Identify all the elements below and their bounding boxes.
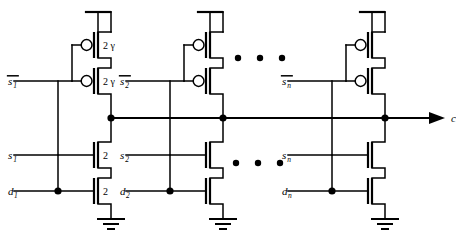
output-label: c xyxy=(451,112,456,124)
pmos-top xyxy=(184,32,210,58)
stage-1: s1s1d12 γ2 γ22 xyxy=(8,12,125,229)
ellipsis-bottom-dot-1 xyxy=(233,160,239,166)
output-arrow-group: c xyxy=(385,112,456,124)
inversion-bubble-icon xyxy=(81,40,92,51)
stage-n-d-label: dn xyxy=(282,185,292,200)
nmos-top xyxy=(332,142,372,168)
stage-1-size-nmos-bottom: 2 xyxy=(103,186,108,197)
nmos-drain-to-out xyxy=(210,118,223,142)
nmos-drain-to-out xyxy=(372,118,385,142)
nmos-bottom xyxy=(332,178,372,204)
stage-n-s-label: sn xyxy=(282,149,291,164)
stage-n: snsndn xyxy=(282,12,399,229)
pmos-top xyxy=(346,32,372,58)
nmos-source-to-gnd xyxy=(210,204,223,219)
nmos-drain-to-out xyxy=(98,118,111,142)
stage-1-size-pmos-top: 2 γ xyxy=(103,40,116,51)
stage-1-d-label-subscript: 1 xyxy=(14,191,18,200)
stage-1-d-label: d1 xyxy=(8,185,18,200)
pmos-series-link xyxy=(98,58,111,68)
stage-n-sbar-label: sn xyxy=(282,75,293,90)
stage-1-s-label: s1 xyxy=(8,149,17,164)
stage-n-sbar-label-subscript: n xyxy=(287,81,291,90)
nmos-top xyxy=(58,142,98,168)
stage-2: s2s2d2 xyxy=(120,12,237,229)
nmos-bottom xyxy=(170,178,210,204)
d-junction-dot xyxy=(328,187,335,194)
inversion-bubble-icon xyxy=(193,76,204,87)
ellipsis-bottom-dot-2 xyxy=(255,160,261,166)
ellipsis-bottom-dot-3 xyxy=(277,160,283,166)
d-junction-dot xyxy=(166,187,173,194)
nmos-series-link xyxy=(372,168,385,178)
schematic-canvas: s1s1d12 γ2 γ22s2s2d2snsndnc xyxy=(0,0,456,246)
stage-2-s-label: s2 xyxy=(120,149,129,164)
stage-2-s-label-subscript: 2 xyxy=(125,155,129,164)
nmos-bottom xyxy=(58,178,98,204)
pmos-series-link xyxy=(372,58,385,68)
ellipsis-top-dot-2 xyxy=(257,55,263,61)
pmos-bottom xyxy=(184,68,210,94)
stage-1-size-pmos-bottom: 2 γ xyxy=(103,76,116,87)
stage-1-sbar-label-subscript: 1 xyxy=(13,81,17,90)
stage-1-s-label-base: s xyxy=(8,149,12,161)
ellipsis-top-dot-1 xyxy=(235,55,241,61)
output-node-dot xyxy=(107,114,114,121)
stage-n-d-label-subscript: n xyxy=(288,191,292,200)
stage-2-sbar-label-subscript: 2 xyxy=(125,81,129,90)
pmos-drain-to-out xyxy=(98,94,111,118)
nmos-series-link xyxy=(98,168,111,178)
ellipsis-bottom xyxy=(233,160,283,166)
pmos-top xyxy=(72,32,98,58)
nmos-series-link xyxy=(210,168,223,178)
pmos-bottom xyxy=(346,68,372,94)
nmos-source-to-gnd xyxy=(372,204,385,219)
inversion-bubble-icon xyxy=(355,76,366,87)
stage-n-s-label-subscript: n xyxy=(287,155,291,164)
ellipsis-top xyxy=(235,55,285,61)
stage-1-s-label-subscript: 1 xyxy=(13,155,17,164)
stage-1-size-nmos-top: 2 xyxy=(103,150,108,161)
stage-2-sbar-label: s2 xyxy=(120,75,131,90)
stage-1-sbar-label: s1 xyxy=(8,75,19,90)
stage-2-d-label-subscript: 2 xyxy=(126,191,130,200)
nmos-top xyxy=(170,142,210,168)
stage-2-d-label: d2 xyxy=(120,185,130,200)
pmos-drain-to-out xyxy=(210,94,223,118)
pmos-series-link xyxy=(210,58,223,68)
d-junction-dot xyxy=(54,187,61,194)
nmos-source-to-gnd xyxy=(98,204,111,219)
inversion-bubble-icon xyxy=(193,40,204,51)
circuit-diagram: s1s1d12 γ2 γ22s2s2d2snsndnc xyxy=(0,0,456,246)
stage-n-s-label-base: s xyxy=(282,149,286,161)
output-node-dot xyxy=(219,114,226,121)
stage-2-s-label-base: s xyxy=(120,149,124,161)
right-arrow-icon xyxy=(429,112,445,124)
inversion-bubble-icon xyxy=(81,76,92,87)
inversion-bubble-icon xyxy=(355,40,366,51)
pmos-drain-to-out xyxy=(372,94,385,118)
pmos-bottom xyxy=(72,68,98,94)
ellipsis-top-dot-3 xyxy=(279,55,285,61)
